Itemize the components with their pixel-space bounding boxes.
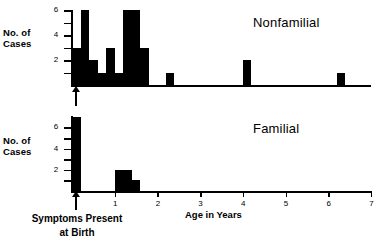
x-tick-label: 6	[322, 199, 335, 208]
annotation-arrow-head-icon	[72, 191, 80, 197]
figure-two-panel-histogram: No. ofCases 642 Nonfamilial No. ofCases …	[0, 0, 381, 249]
y-tick-label: 4	[50, 144, 62, 153]
arrow-head-icon	[72, 86, 80, 92]
x-tick-label: 5	[280, 199, 293, 208]
bar	[123, 10, 132, 85]
x-tick	[371, 191, 373, 197]
bar	[243, 60, 252, 85]
x-tick-label: 4	[237, 199, 250, 208]
bar	[166, 73, 175, 86]
bar	[140, 48, 149, 86]
bar	[115, 170, 124, 191]
panel-title-nonfamilial: Nonfamilial	[253, 16, 320, 31]
bar	[81, 10, 90, 85]
birth-arrow-top	[0, 86, 381, 108]
x-tick	[200, 191, 202, 197]
bar	[106, 48, 115, 86]
bar	[132, 10, 141, 85]
bar	[98, 73, 107, 86]
x-tick-label: 7	[365, 199, 378, 208]
x-tick	[328, 191, 330, 197]
bar	[337, 73, 346, 86]
y-tick-label: 2	[50, 55, 62, 64]
bar	[132, 180, 141, 191]
bar	[115, 73, 124, 86]
y-tick-label: 6	[50, 5, 62, 14]
annotation-line-2: at Birth	[7, 227, 147, 239]
bar	[123, 170, 132, 191]
y-tick-label: 4	[50, 30, 62, 39]
y-tick-label: 2	[50, 165, 62, 174]
annotation-line-1: Symptoms Present	[7, 213, 147, 225]
bar	[89, 60, 98, 85]
y-axis-label-nonfamilial: No. ofCases	[3, 28, 32, 50]
x-tick	[243, 191, 245, 197]
panel-familial: No. ofCases 642 Familial	[0, 108, 381, 194]
bar	[72, 48, 81, 86]
panel-title-familial: Familial	[253, 122, 299, 137]
birth-annotation: Symptoms Present at Birth	[0, 191, 200, 249]
y-tick-label: 6	[50, 122, 62, 131]
x-tick	[286, 191, 288, 197]
bar	[72, 117, 81, 191]
y-axis-label-familial: No. ofCases	[3, 136, 32, 158]
